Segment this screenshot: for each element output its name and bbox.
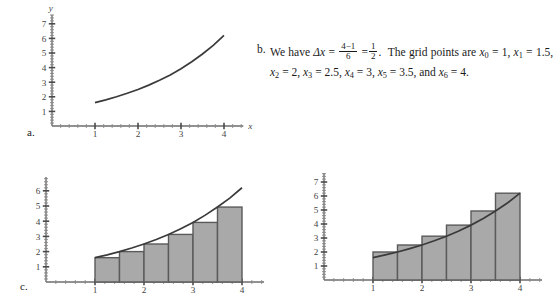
grid-point-x2: x2 = 2, <box>270 66 300 78</box>
y-tick-label: 4 <box>42 63 47 73</box>
grid-point-x2-value: 2 <box>292 66 298 78</box>
fraction-denominator: 6 <box>339 52 357 61</box>
figure-panel-c-right: 12341234567 <box>310 172 542 300</box>
fraction-denominator: 2 <box>369 52 377 61</box>
x-tick-label: 4 <box>518 283 523 293</box>
y-tick-label: 4 <box>314 219 319 229</box>
solution-page: a. 12341234567xy b. We have Δx = 4−16 =1… <box>0 0 559 302</box>
upper-sum-plot: 12341234567 <box>310 172 542 300</box>
grid-point-x5: x5 = 3.5, <box>378 66 417 78</box>
equals-x1: = <box>526 46 533 58</box>
y-tick-label: 1 <box>36 262 41 272</box>
y-tick-label: 3 <box>42 78 47 88</box>
y-tick-label: 7 <box>42 19 47 29</box>
y-tick-label: 5 <box>42 48 47 58</box>
fraction-1-over-2: 12 <box>369 42 377 62</box>
grid-point-x3: x3 = 2.5, <box>303 66 342 78</box>
grid-point-x6-index: 6 <box>444 72 448 81</box>
y-tick-label: 6 <box>42 34 47 44</box>
riemann-bar <box>447 225 472 280</box>
and-word: and <box>419 66 436 78</box>
x-tick-label: 3 <box>179 129 184 139</box>
riemann-bar <box>496 193 521 280</box>
panel-a-plot: 12341234567xy <box>30 6 250 146</box>
y-tick-label: 2 <box>42 92 47 102</box>
riemann-bar <box>95 258 120 282</box>
riemann-bar <box>471 211 496 280</box>
grid-point-x4-value: 3 <box>366 66 372 78</box>
grid-point-x0: x0 = 1, <box>479 46 510 58</box>
equals-x4: = <box>357 66 364 78</box>
equals-x3: = <box>315 66 322 78</box>
lower-sum-plot: 1234123456 <box>32 178 264 300</box>
equals-x2: = <box>282 66 289 78</box>
grid-point-x0-index: 0 <box>485 51 489 60</box>
grid-points-intro: The grid points are <box>388 46 476 58</box>
fraction-4-minus-1-over-6: 4−16 <box>339 42 357 62</box>
period-1: . <box>378 46 381 58</box>
riemann-bar <box>169 234 194 282</box>
x-tick-label: 1 <box>93 129 98 139</box>
equals-x6: = <box>451 66 458 78</box>
part-b-body: We have Δx = 4−16 =12. The grid points a… <box>270 42 553 85</box>
equals-2: = <box>361 46 368 58</box>
y-tick-label: 3 <box>314 233 319 243</box>
grid-point-x4-index: 4 <box>350 72 354 81</box>
x-tick-label: 3 <box>191 285 196 295</box>
y-tick-label: 7 <box>314 177 319 187</box>
x-tick-label: 4 <box>222 129 227 139</box>
grid-point-x4: x4 = 3, <box>345 66 375 78</box>
x-tick-label: 2 <box>136 129 141 139</box>
equals-1: = <box>328 46 335 58</box>
y-tick-label: 4 <box>36 217 41 227</box>
x-tick-label: 4 <box>240 285 245 295</box>
grid-point-x2-index: 2 <box>275 72 279 81</box>
equals-x5: = <box>390 66 397 78</box>
part-b-text-block: b. We have Δx = 4−16 =12. The grid point… <box>257 42 553 85</box>
y-tick-label: 2 <box>36 247 41 257</box>
x-tick-label: 2 <box>420 283 425 293</box>
grid-point-x1-value: 1.5 <box>536 46 550 58</box>
y-tick-label: 1 <box>42 107 47 117</box>
x-axis-label: x <box>247 121 253 131</box>
part-c-label: c. <box>20 280 28 292</box>
grid-point-x1: x1 = 1.5, <box>514 46 554 58</box>
part-b-label: b. <box>257 43 266 55</box>
grid-point-x0-value: 1 <box>502 46 508 58</box>
y-axis-label: y <box>48 3 54 13</box>
x-tick-label: 2 <box>142 285 147 295</box>
figure-panel-a: 12341234567xy <box>30 6 250 146</box>
y-tick-label: 6 <box>314 191 319 201</box>
x-tick-label: 1 <box>371 283 376 293</box>
grid-point-x3-value: 2.5 <box>325 66 339 78</box>
riemann-bar <box>144 244 169 282</box>
y-tick-label: 1 <box>314 261 319 271</box>
grid-point-x5-index: 5 <box>383 72 387 81</box>
x-tick-label: 1 <box>93 285 98 295</box>
riemann-bar <box>120 252 145 282</box>
riemann-bar <box>422 236 447 280</box>
y-tick-label: 2 <box>314 247 319 257</box>
grid-point-x1-index: 1 <box>519 51 523 60</box>
riemann-bar <box>218 207 243 282</box>
grid-point-x6: x6 = 4. <box>439 66 469 78</box>
grid-point-x3-index: 3 <box>308 72 312 81</box>
grid-point-x5-value: 3.5 <box>399 66 413 78</box>
equals-x0: = <box>492 46 499 58</box>
y-tick-label: 5 <box>314 205 319 215</box>
delta-x-symbol: Δx <box>313 46 325 58</box>
y-tick-label: 6 <box>36 186 41 196</box>
period-2: . <box>466 66 469 78</box>
figure-panel-c-left: 1234123456 <box>32 178 264 300</box>
y-tick-label: 5 <box>36 201 41 211</box>
x-tick-label: 3 <box>469 283 474 293</box>
text-lead: We have <box>270 46 310 58</box>
riemann-bar <box>193 222 218 282</box>
function-curve <box>95 35 224 102</box>
y-tick-label: 3 <box>36 232 41 242</box>
